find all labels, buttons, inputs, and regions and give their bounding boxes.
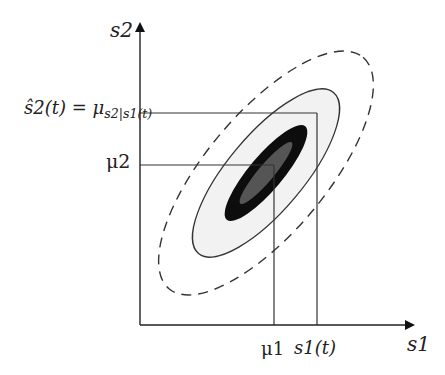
x-observed-text: s1(t) xyxy=(294,337,336,358)
y-estimate-lhs: ŝ2(t) = μ xyxy=(24,97,104,118)
y-axis-label-text: s2 xyxy=(110,18,133,42)
x-mean-label: μ1 xyxy=(261,340,284,358)
gaussian-contours xyxy=(123,19,409,327)
diagram-canvas xyxy=(0,0,445,375)
x-observed-label: s1(t) xyxy=(294,339,336,357)
x-axis-label-text: s1 xyxy=(407,332,430,356)
y-estimate-subscript: s2|s1(t) xyxy=(104,106,152,121)
x-axis-label: s1 xyxy=(407,334,430,354)
x-mean-text: μ1 xyxy=(261,338,284,359)
y-mean-label: μ2 xyxy=(106,152,130,171)
y-axis-label: s2 xyxy=(110,20,133,40)
y-mean-text: μ2 xyxy=(106,150,130,172)
y-estimate-label: ŝ2(t) = μs2|s1(t) xyxy=(24,99,152,120)
